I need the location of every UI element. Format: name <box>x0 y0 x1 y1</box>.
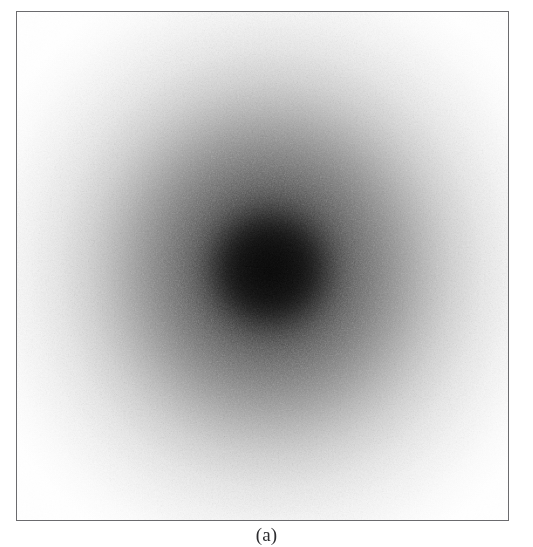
spectrum-canvas <box>17 12 508 520</box>
core-hotspot <box>218 219 322 319</box>
figure-panel <box>16 11 509 521</box>
figure-caption: (a) <box>0 523 533 547</box>
spectrum-image <box>17 12 508 520</box>
